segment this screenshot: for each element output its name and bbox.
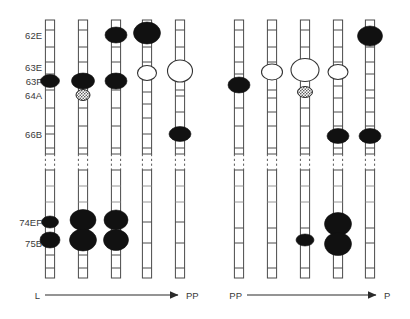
locus-label-group: 62E63E63F64A66B74EF75B	[19, 30, 42, 249]
puff-63F-filled	[41, 75, 60, 88]
puff-74EF-filled	[325, 213, 352, 236]
figure-canvas: 62E63E63F64A66B74EF75B LPPPPP	[0, 0, 410, 319]
puff-66B-filled	[169, 127, 191, 142]
puff-75B-filled	[40, 232, 60, 248]
left-arrow-end-label: PP	[186, 290, 199, 301]
chromosome-c8	[291, 20, 319, 278]
locus-label-64A: 64A	[25, 90, 43, 101]
puff-75B-filled	[70, 229, 97, 251]
puff-63E-open	[291, 59, 319, 82]
locus-label-62E: 62E	[25, 30, 42, 41]
puff-63E-open	[262, 64, 283, 80]
chromosome-arm-upper	[267, 20, 276, 154]
puff-75B-filled	[325, 233, 352, 256]
puff-63F-filled	[228, 77, 250, 93]
puff-63E-open	[328, 65, 348, 80]
puff-74EF-filled	[104, 210, 128, 230]
left-arrow-start-label: L	[35, 290, 40, 301]
chromosome-puffing-figure: 62E63E63F64A66B74EF75B LPPPPP	[0, 0, 410, 319]
right-arrow-start-label: PP	[229, 290, 242, 301]
left-arrow: LPP	[35, 290, 199, 301]
locus-label-66B: 66B	[25, 129, 42, 140]
puff-64A-intermediate	[76, 90, 90, 101]
puff-64A-intermediate	[298, 87, 313, 98]
locus-label-63E: 63E	[25, 62, 42, 73]
puff-63E-open	[168, 60, 193, 82]
chromosome-c6	[228, 20, 250, 278]
locus-label-63F: 63F	[26, 76, 43, 87]
puff-63E-open	[138, 66, 157, 81]
chromosome-c4	[134, 20, 161, 278]
right-arrow: PPP	[229, 290, 390, 301]
chromosome-group	[40, 20, 383, 278]
puff-74EF-filled	[296, 234, 314, 246]
puff-63F-filled	[105, 73, 127, 89]
puff-63F-filled	[72, 73, 95, 89]
puff-75B-filled	[104, 230, 129, 251]
chromosome-c5	[168, 20, 193, 278]
chromosome-c3	[104, 20, 129, 278]
right-arrow-end-label: P	[384, 290, 390, 301]
puff-74EF-filled	[70, 210, 96, 231]
chromosome-c2	[70, 20, 97, 278]
puff-62E-filled	[358, 26, 383, 46]
locus-label-74EF: 74EF	[19, 217, 42, 228]
stage-arrow-group: LPPPPP	[35, 290, 391, 301]
locus-label-75B: 75B	[25, 238, 42, 249]
chromosome-c1	[40, 20, 60, 278]
chromosome-c7	[262, 20, 283, 278]
puff-62E-filled	[105, 27, 127, 43]
chromosome-c9	[325, 20, 352, 278]
puff-62E-filled	[134, 22, 161, 44]
chromosome-c10	[358, 20, 383, 278]
puff-66B-filled	[327, 129, 349, 144]
puff-66B-filled	[359, 129, 381, 144]
puff-74EF-filled	[42, 216, 59, 228]
